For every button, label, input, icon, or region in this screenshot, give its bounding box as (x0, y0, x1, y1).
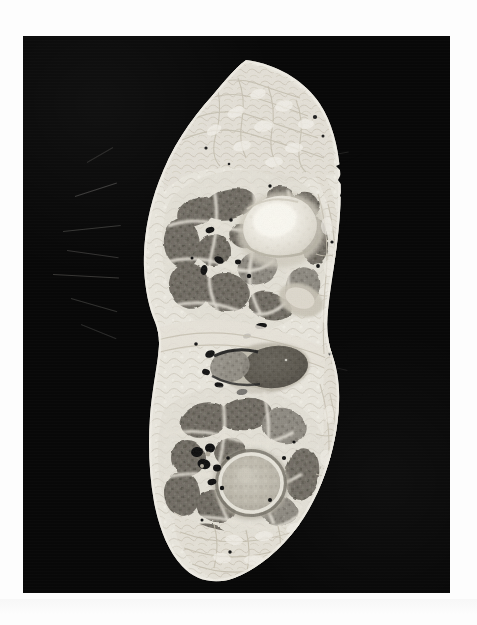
specimen-section (118, 54, 363, 584)
hair-fibre-icon (63, 225, 121, 232)
hair-fibre-icon (67, 250, 119, 258)
hair-fibre-icon (81, 324, 117, 339)
page-canvas (0, 0, 477, 625)
hair-fibre-icon (75, 182, 117, 197)
hair-fibre-icon (87, 147, 113, 163)
hair-fibre-icon (53, 274, 119, 278)
page-edge-tone (0, 599, 477, 625)
photographic-plate (23, 36, 450, 593)
hair-fibre-icon (71, 298, 117, 312)
